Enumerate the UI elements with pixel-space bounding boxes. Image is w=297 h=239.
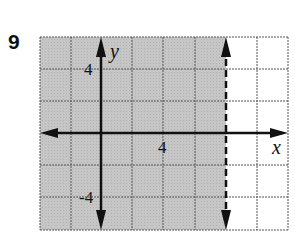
y-tick-label-4: 4 — [84, 60, 93, 80]
y-axis-label: y — [110, 40, 119, 63]
x-tick-label-4: 4 — [158, 138, 167, 158]
x-axis-label: x — [272, 136, 281, 159]
coordinate-graph — [0, 0, 297, 239]
y-tick-label-neg4: -4 — [79, 188, 93, 208]
